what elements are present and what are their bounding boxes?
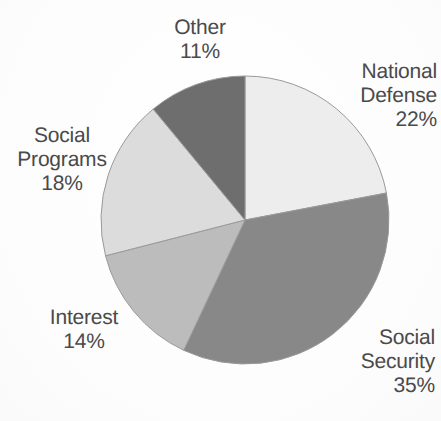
slice-label-other-name: Other: [146, 16, 254, 40]
slice-label-interest-percent: 14%: [28, 330, 140, 354]
slice-label-interest-name: Interest: [28, 306, 140, 330]
slice-label-social-security: Social Security 35%: [361, 326, 435, 398]
slice-label-other: Other 11%: [146, 16, 254, 64]
slice-label-other-percent: 11%: [146, 40, 254, 64]
pie-slice-group: [101, 76, 389, 364]
slice-label-social-programs-percent: 18%: [6, 172, 118, 196]
slice-label-social-security-percent: 35%: [361, 374, 435, 398]
slice-label-social-programs: Social Programs 18%: [6, 124, 118, 196]
slice-label-national-defense: National Defense 22%: [360, 60, 437, 132]
pie-chart-figure: Other 11% National Defense 22% Social Pr…: [0, 0, 441, 421]
slice-label-social-programs-name-line1: Social: [6, 124, 118, 148]
slice-label-social-programs-name-line2: Programs: [6, 148, 118, 172]
slice-label-interest: Interest 14%: [28, 306, 140, 354]
slice-label-social-security-name-line2: Security: [361, 350, 435, 374]
slice-label-social-security-name-line1: Social: [361, 326, 435, 350]
slice-label-national-defense-name-line2: Defense: [360, 84, 437, 108]
slice-label-national-defense-percent: 22%: [360, 108, 437, 132]
slice-label-national-defense-name-line1: National: [360, 60, 437, 84]
